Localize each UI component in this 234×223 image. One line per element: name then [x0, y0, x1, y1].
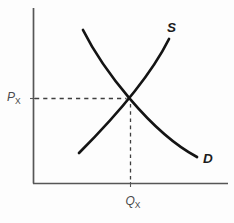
quantity-label: QX: [119, 195, 147, 210]
supply-curve: [79, 39, 169, 153]
price-label: PX: [7, 91, 33, 106]
supply-demand-diagram: PX QX S D: [0, 0, 234, 223]
price-label-letter: P: [7, 90, 15, 104]
price-label-subscript: X: [15, 96, 21, 106]
demand-curve-label: D: [203, 152, 213, 166]
quantity-label-subscript: X: [135, 200, 141, 210]
demand-curve: [83, 30, 197, 157]
supply-curve-label: S: [167, 21, 176, 35]
diagram-canvas: [0, 0, 234, 223]
quantity-label-letter: Q: [125, 194, 134, 208]
